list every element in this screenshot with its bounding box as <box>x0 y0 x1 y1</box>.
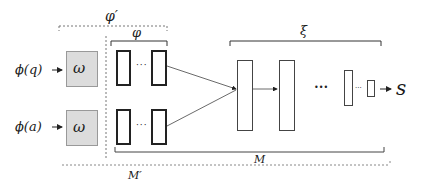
m-label: M <box>254 154 265 165</box>
m-bracket <box>115 147 384 152</box>
phi-block-bottom-2 <box>151 109 167 145</box>
diagram-lines <box>0 0 421 188</box>
m-prime-dashed-bracket <box>62 161 390 165</box>
omega-label-a: ω <box>73 120 85 135</box>
phi-bracket <box>111 41 167 46</box>
dense-ellipsis-small: ··· <box>355 85 362 92</box>
model-diagram: φ′ φ ξ ϕ(q) ϕ(a) ω ω ··· ··· ••• ··· s M… <box>0 0 421 188</box>
xi-label: ξ <box>300 24 307 37</box>
dense-ellipsis: ••• <box>314 84 328 92</box>
m-prime-label: M′ <box>128 170 142 181</box>
xi-bracket <box>230 41 381 46</box>
output-s-label: s <box>396 78 406 98</box>
dense-layer-2 <box>279 60 295 131</box>
phi-prime-label: φ′ <box>105 9 118 23</box>
dense-layer-1 <box>237 60 253 131</box>
connector-top <box>167 66 236 89</box>
connector-bottom <box>167 90 236 126</box>
omega-label-q: ω <box>73 61 85 76</box>
dense-layer-n <box>344 70 353 106</box>
phi-block-top-2 <box>151 50 167 86</box>
phi-block-bottom-1 <box>116 109 131 145</box>
phi-ellipsis-bottom: ··· <box>136 121 148 130</box>
input-phi-a-label: ϕ(a) <box>15 120 42 133</box>
input-phi-q-label: ϕ(q) <box>15 63 42 76</box>
phi-ellipsis-top: ··· <box>136 61 148 70</box>
phi-block-top-1 <box>116 50 131 86</box>
phi-label: φ <box>132 26 141 39</box>
phi-prime-dashed-bracket <box>59 26 167 31</box>
output-layer <box>367 80 375 97</box>
